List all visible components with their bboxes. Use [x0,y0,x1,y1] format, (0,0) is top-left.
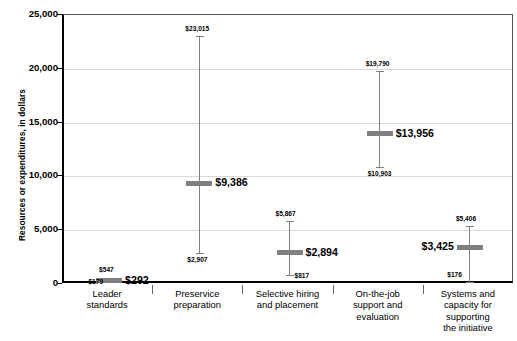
x-axis-label-line: Preservice [152,288,242,299]
max-cap [466,226,474,227]
min-value-label: $817 [295,272,310,280]
y-axis-tick-label: 25,000 [14,9,58,19]
max-cap [376,71,384,72]
gridline [64,69,512,70]
min-cap [196,253,204,254]
x-axis-category-labels: LeaderstandardsPreservicepreparationSele… [62,288,513,341]
max-cap [196,36,204,37]
x-axis-category-label: Selective hiringand placement [242,288,332,311]
x-axis-label-line: the initiative [423,322,513,333]
x-axis-category-label: Leaderstandards [62,288,152,311]
median-marker [186,181,212,186]
y-axis-tick-labels: 05,00010,00015,00020,00025,000 [10,0,58,341]
gridline [64,230,512,231]
median-value-label: $2,894 [306,247,338,258]
whisker-line [469,226,470,282]
gridline [64,123,512,124]
median-marker [457,245,483,250]
min-cap [466,282,474,283]
max-value-label: $5,406 [456,215,476,223]
max-value-label: $547 [99,266,114,274]
median-value-label: $13,956 [396,128,434,139]
max-value-label: $5,867 [276,210,296,218]
y-axis-tick-label: 20,000 [14,63,58,73]
min-value-label: $176 [447,271,462,279]
x-axis-category-label: On-the-jobsupport andevaluation [333,288,423,322]
x-axis-label-line: Selective hiring [242,288,332,299]
x-axis-label-line: Leader [62,288,152,299]
x-axis-label-line: supporting [423,311,513,322]
whisker-line [199,36,200,252]
y-axis-tick-label: 0 [14,278,58,288]
y-axis-tick-label: 5,000 [14,224,58,234]
min-cap [376,167,384,168]
median-value-label: $3,425 [421,241,453,252]
min-value-label: $2,907 [187,256,207,264]
x-axis-category-label: Systems andcapacity forsupportingthe ini… [423,288,513,334]
whisker-line [289,221,290,275]
x-axis-label-line: preparation [152,299,242,310]
x-axis-label-line: evaluation [333,311,423,322]
x-axis-label-line: standards [62,299,152,310]
x-axis-label-line: On-the-job [333,288,423,299]
median-value-label: $9,386 [215,177,247,188]
max-value-label: $23,015 [185,25,209,33]
whisker-line [379,71,380,167]
y-axis-tick-label: 15,000 [14,117,58,127]
plot-area: $292$547$179$9,386$23,015$2,907$2,894$5,… [62,14,513,283]
y-axis-tick-mark [57,283,62,284]
x-axis-label-line: support and [333,299,423,310]
chart-container: Resources or expenditures, in dollars 05… [0,0,517,341]
median-marker [277,250,303,255]
x-axis-category-label: Preservicepreparation [152,288,242,311]
max-cap [286,221,294,222]
x-axis-label-line: and placement [242,299,332,310]
min-cap [286,275,294,276]
median-marker [367,131,393,136]
max-value-label: $19,790 [366,60,390,68]
x-axis-label-line: capacity for [423,299,513,310]
x-axis-label-line: Systems and [423,288,513,299]
gridline [64,176,512,177]
y-axis-tick-label: 10,000 [14,170,58,180]
min-value-label: $10,903 [368,170,392,178]
